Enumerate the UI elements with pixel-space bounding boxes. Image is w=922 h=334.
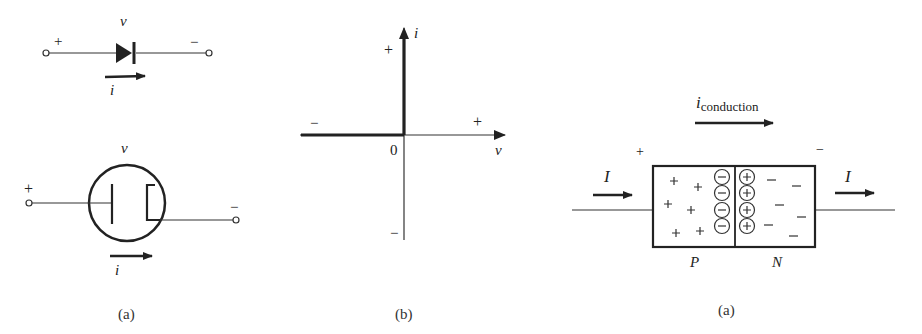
figure-canvas: v + − i v + − i (a) i + − + 0 bbox=[0, 0, 922, 334]
n-region-label: N bbox=[771, 254, 783, 270]
diode-current-label: i bbox=[110, 82, 114, 98]
origin-label: 0 bbox=[390, 142, 398, 158]
iv-caption: (b) bbox=[395, 306, 413, 323]
tube-minus-sign: − bbox=[230, 199, 238, 215]
y-plus-sign: + bbox=[384, 41, 393, 58]
semiconductor-block bbox=[653, 166, 815, 247]
junction-minus-sign: − bbox=[816, 142, 824, 157]
diode-minus-sign: − bbox=[190, 34, 198, 50]
tube-voltage-label: v bbox=[121, 140, 128, 156]
y-axis-label: i bbox=[414, 25, 418, 41]
iv-characteristic-figure: i + − + 0 v − (b) bbox=[300, 25, 505, 323]
diode-plus-sign: + bbox=[54, 33, 62, 49]
junction-plus-sign: + bbox=[636, 144, 644, 159]
tube-anode-plate-icon bbox=[147, 185, 160, 220]
tube-right-terminal bbox=[233, 217, 239, 223]
pn-caption: (a) bbox=[718, 302, 735, 319]
input-current-label: I bbox=[603, 167, 611, 186]
conduction-current-label: iconduction bbox=[696, 93, 759, 114]
y-minus-sign: − bbox=[390, 225, 398, 241]
diode-right-terminal bbox=[206, 50, 212, 56]
diode-symbol-figure: v + − i bbox=[43, 13, 212, 98]
output-current-label: I bbox=[844, 167, 852, 186]
tube-plus-sign: + bbox=[24, 180, 33, 197]
diode-left-terminal bbox=[43, 50, 49, 56]
x-axis-label: v bbox=[495, 142, 502, 158]
tube-caption: (a) bbox=[118, 306, 135, 323]
p-region-label: P bbox=[689, 254, 699, 270]
x-minus-sign: − bbox=[310, 115, 318, 131]
vacuum-tube-figure: v + − i (a) bbox=[24, 140, 239, 323]
x-plus-sign: + bbox=[473, 113, 482, 130]
tube-current-label: i bbox=[115, 262, 119, 278]
tube-left-terminal bbox=[26, 200, 32, 206]
diode-anode-triangle-icon bbox=[116, 43, 132, 63]
pn-junction-figure: iconduction + − I I bbox=[572, 93, 895, 319]
diode-current-arrow-icon bbox=[105, 76, 145, 77]
diode-voltage-label: v bbox=[120, 13, 127, 29]
